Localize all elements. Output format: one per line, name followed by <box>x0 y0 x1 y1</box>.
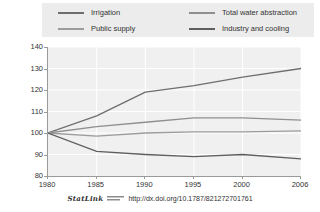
x-tick-mark <box>193 176 194 179</box>
x-tick-mark <box>47 176 48 179</box>
x-tick-label: 1995 <box>173 180 213 189</box>
y-tick-label: 90 <box>19 151 43 159</box>
statlink-glyph-icon <box>107 195 124 202</box>
x-tick-mark <box>300 176 301 179</box>
series-line <box>48 131 301 136</box>
y-tick-mark <box>44 133 47 134</box>
legend-row: Irrigation Total water abstraction <box>42 4 314 21</box>
legend-item-total-water-abstraction: Total water abstraction <box>177 4 314 21</box>
x-tick-mark <box>96 176 97 179</box>
statlink-url[interactable]: http://dx.doi.org/10.1787/821272701761 <box>128 195 252 202</box>
legend-line-swatch-icon <box>58 28 84 30</box>
legend-line-swatch-icon <box>189 28 215 30</box>
y-tick-mark <box>44 90 47 91</box>
legend-label: Public supply <box>91 24 135 33</box>
line-chart: 8090100110120130140 19801985199019952000… <box>0 40 320 188</box>
x-tick-mark <box>144 176 145 179</box>
y-tick-mark <box>44 47 47 48</box>
x-tick-label: 2006 <box>280 180 320 189</box>
statlink-label: StatLink <box>67 194 103 203</box>
y-tick-mark <box>44 69 47 70</box>
legend-label: Total water abstraction <box>222 8 297 17</box>
y-tick-label: 130 <box>19 65 43 73</box>
y-tick-mark <box>44 155 47 156</box>
legend-row: Public supply Industry and cooling <box>42 20 314 37</box>
y-tick-label: 140 <box>19 43 43 51</box>
x-tick-label: 2000 <box>222 180 262 189</box>
statlink-footer: StatLink http://dx.doi.org/10.1787/82127… <box>0 191 320 205</box>
y-tick-label: 100 <box>19 129 43 137</box>
legend-item-irrigation: Irrigation <box>42 4 177 21</box>
legend-line-swatch-icon <box>58 12 84 14</box>
y-axis: 8090100110120130140 <box>17 47 43 176</box>
x-tick-label: 1985 <box>76 180 116 189</box>
series-lines <box>48 47 301 176</box>
series-line <box>48 69 301 134</box>
y-tick-label: 120 <box>19 86 43 94</box>
legend-item-industry-and-cooling: Industry and cooling <box>177 20 314 37</box>
y-tick-mark <box>44 112 47 113</box>
legend-label: Irrigation <box>91 8 120 17</box>
x-tick-label: 1980 <box>27 180 67 189</box>
plot-area <box>47 47 301 177</box>
y-tick-label: 110 <box>19 108 43 116</box>
x-tick-label: 1990 <box>124 180 164 189</box>
y-tick-label: 80 <box>19 172 43 180</box>
x-tick-mark <box>242 176 243 179</box>
legend-label: Industry and cooling <box>222 24 289 33</box>
legend-item-public-supply: Public supply <box>42 20 177 37</box>
legend-line-swatch-icon <box>189 12 215 14</box>
chart-legend: Irrigation Total water abstraction Publi… <box>42 3 314 37</box>
